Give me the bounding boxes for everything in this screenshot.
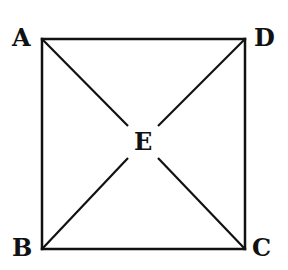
diagonal-ae [42, 39, 128, 126]
diagonal-eb [42, 158, 128, 249]
geometry-diagram: A D B C E [0, 0, 288, 270]
diagonal-de [158, 39, 245, 126]
diagonal-ec [158, 158, 245, 249]
label-a: A [11, 23, 31, 52]
label-d: D [254, 23, 275, 52]
label-e: E [134, 127, 152, 156]
label-b: B [12, 233, 32, 262]
label-c: C [252, 233, 271, 262]
